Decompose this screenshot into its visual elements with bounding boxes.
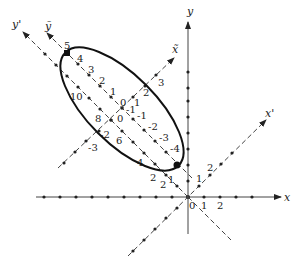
y-prime-tick-2: 2 [160,179,166,190]
x-tilde-tick-1: 1 [134,97,140,108]
y-prime-negative [188,197,231,240]
x-tick-1: 1 [201,200,207,211]
y-prime-tick-8: 8 [95,113,101,124]
y-tilde-tick-neg1: -1 [137,110,147,121]
x-tick-2: 2 [217,200,223,211]
y-axis-label: y [186,5,194,18]
y-tilde-axis: ỹ -4 -3 -2 -1 0 1 2 3 4 5 [44,20,192,178]
x-axis-label: x [284,191,291,204]
x-prime-label: x' [265,107,274,120]
x-prime-tick-1: 1 [196,173,202,184]
ellipse-vertex-top [64,50,70,56]
y-tilde-tick-neg2: -2 [148,121,158,132]
x-tilde-tick-3: 3 [158,77,164,88]
x-prime-tick-2: 2 [207,162,213,173]
ellipse-vertex-bottom [174,162,181,169]
x-tick-0: 0 [189,200,195,211]
x-tilde-tick-0: 0 [120,97,126,108]
y-tilde-tick-0: 0 [117,113,123,124]
extra-tick-1: 1 [168,174,174,185]
y-tilde-tick-neg3: -3 [159,132,169,143]
y-tilde-tick-neg4: -4 [170,143,180,154]
y-prime-label: y' [11,18,21,31]
coordinate-diagram: x 0 1 2 y x' 1 2 [0,0,297,260]
x-tilde-tick-neg3: -3 [88,142,98,153]
x-tilde-label: x̃ [172,43,179,56]
y-tilde-tick-4: 4 [77,53,83,64]
y-tilde-label: ỹ [44,20,52,33]
y-tilde-tick-2: 2 [99,75,105,86]
x-axis: x 0 1 2 [36,191,291,211]
y-tilde-tick-1: 1 [110,86,116,97]
y-tilde-tick-3: 3 [88,64,94,75]
y-prime-tick-6: 6 [116,135,122,146]
extra-tick-2: 2 [150,172,156,183]
